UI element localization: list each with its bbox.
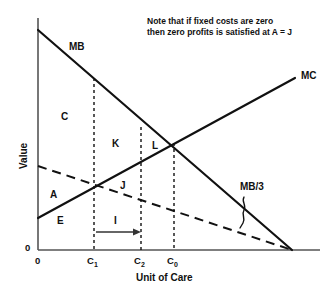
x-tick-c0-base: C bbox=[167, 255, 174, 266]
note-annotation: Note that if fixed costs are zero then z… bbox=[147, 16, 292, 39]
economics-diagram: MB MC MB/3 C K L A J E I 0 0 C1 C2 C0 Va… bbox=[0, 0, 330, 290]
y-axis-title: Value bbox=[18, 143, 30, 169]
diagram-canvas bbox=[0, 0, 330, 290]
curve-mc bbox=[38, 78, 295, 218]
x-tick-label-c2: C2 bbox=[134, 256, 145, 269]
curve-mb bbox=[38, 30, 292, 250]
curve-mb-third bbox=[38, 166, 292, 250]
curve-label-mc: MC bbox=[301, 70, 317, 82]
region-label-a: A bbox=[50, 189, 57, 201]
shift-arrow-head bbox=[133, 228, 141, 235]
x-tick-c1-base: C bbox=[87, 255, 94, 266]
region-label-k: K bbox=[112, 138, 119, 150]
region-label-i: I bbox=[114, 215, 117, 227]
x-tick-c2-sub: 2 bbox=[141, 261, 145, 268]
x-tick-label-c0: C0 bbox=[167, 256, 178, 269]
y-axis-zero-label: 0 bbox=[25, 243, 30, 254]
region-label-c: C bbox=[61, 111, 68, 123]
x-axis-zero-label: 0 bbox=[35, 256, 40, 267]
region-label-e: E bbox=[57, 215, 64, 227]
curve-label-mb-third: MB/3 bbox=[240, 181, 264, 193]
x-tick-c0-sub: 0 bbox=[174, 261, 178, 268]
x-tick-c1-sub: 1 bbox=[94, 261, 98, 268]
region-label-l: L bbox=[152, 140, 158, 152]
x-axis-title: Unit of Care bbox=[136, 272, 193, 284]
x-tick-c2-base: C bbox=[134, 255, 141, 266]
x-tick-label-c1: C1 bbox=[87, 256, 98, 269]
note-line-2: then zero profits is satisfied at A = J bbox=[147, 27, 292, 38]
region-label-j: J bbox=[120, 180, 126, 192]
mb-third-leader-line bbox=[240, 197, 245, 228]
note-line-1: Note that if fixed costs are zero bbox=[147, 16, 292, 27]
curve-label-mb: MB bbox=[69, 41, 85, 53]
